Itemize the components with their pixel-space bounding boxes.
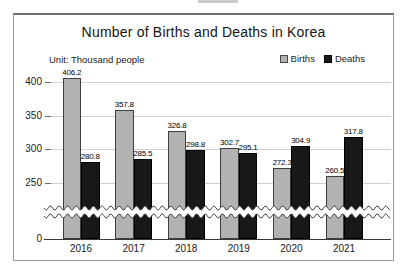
unit-label: Unit: Thousand people bbox=[49, 54, 144, 65]
value-label-births-2019: 302.7 bbox=[220, 138, 239, 147]
window-edge-artifact bbox=[198, 0, 238, 3]
value-label-deaths-2016: 280.8 bbox=[81, 152, 100, 161]
axis-break-squiggle bbox=[44, 203, 391, 223]
x-axis-baseline bbox=[44, 239, 391, 241]
value-label-births-2021: 260.5 bbox=[325, 166, 344, 175]
y-axis-label-400: 400 bbox=[14, 76, 42, 87]
legend-item-deaths: Deaths bbox=[324, 53, 365, 64]
value-label-births-2018: 326.8 bbox=[167, 121, 186, 130]
x-axis-label-2020: 2020 bbox=[280, 243, 302, 254]
chart-panel: Number of Births and Deaths in Korea Uni… bbox=[13, 13, 394, 261]
deaths-swatch-icon bbox=[324, 55, 332, 63]
x-axis-label-2021: 2021 bbox=[333, 243, 355, 254]
bar-deaths-2021 bbox=[344, 137, 363, 239]
y-tick-250 bbox=[45, 183, 51, 184]
gridline-400 bbox=[51, 82, 391, 83]
y-axis-label-350: 350 bbox=[14, 110, 42, 121]
value-label-deaths-2021: 317.8 bbox=[344, 127, 363, 136]
y-axis-label-0: 0 bbox=[14, 233, 42, 244]
y-tick-300 bbox=[45, 149, 51, 150]
value-label-deaths-2019: 295.1 bbox=[239, 143, 258, 152]
y-axis-label-300: 300 bbox=[14, 143, 42, 154]
value-label-births-2016: 406.2 bbox=[62, 68, 81, 77]
births-swatch-icon bbox=[280, 55, 288, 63]
bar-deaths-2016 bbox=[81, 162, 100, 239]
births-legend-label: Births bbox=[291, 53, 315, 64]
value-label-births-2017: 357.8 bbox=[115, 100, 134, 109]
bar-deaths-2020 bbox=[291, 146, 310, 239]
legend-item-births: Births bbox=[280, 53, 315, 64]
x-axis-label-2017: 2017 bbox=[122, 243, 144, 254]
x-axis-label-2019: 2019 bbox=[228, 243, 250, 254]
value-label-deaths-2018: 298.8 bbox=[186, 140, 205, 149]
y-tick-350 bbox=[45, 116, 51, 117]
screenshot-root: Number of Births and Deaths in Korea Uni… bbox=[0, 0, 404, 268]
legend: Births Deaths bbox=[280, 53, 365, 64]
bar-deaths-2018 bbox=[186, 150, 205, 239]
gridline-350 bbox=[51, 116, 391, 117]
y-tick-400 bbox=[45, 82, 51, 83]
bar-deaths-2017 bbox=[134, 159, 153, 239]
value-label-deaths-2020: 304.9 bbox=[291, 136, 310, 145]
bar-deaths-2019 bbox=[239, 153, 258, 239]
value-label-births-2020: 272.3 bbox=[273, 158, 292, 167]
x-axis-label-2018: 2018 bbox=[175, 243, 197, 254]
y-axis-label-250: 250 bbox=[14, 177, 42, 188]
deaths-legend-label: Deaths bbox=[335, 53, 365, 64]
x-axis-label-2016: 2016 bbox=[70, 243, 92, 254]
chart-inner: Number of Births and Deaths in Korea Uni… bbox=[14, 15, 393, 260]
value-label-deaths-2017: 285.5 bbox=[133, 149, 152, 158]
bar-births-2019 bbox=[220, 148, 239, 239]
chart-title: Number of Births and Deaths in Korea bbox=[14, 24, 393, 40]
